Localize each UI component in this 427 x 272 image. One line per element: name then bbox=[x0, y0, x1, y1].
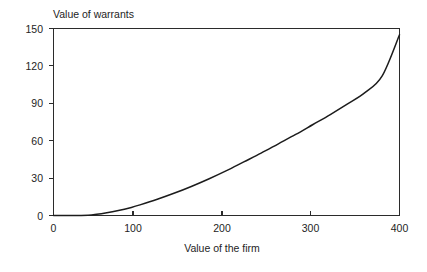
y-tick-label-150: 150 bbox=[25, 23, 43, 35]
y-tick-label-120: 120 bbox=[25, 60, 43, 72]
chart-figure: 150 120 90 60 30 0 0 100 200 300 400 Val… bbox=[0, 0, 427, 272]
warrant-value-line-chart: 150 120 90 60 30 0 0 100 200 300 400 Val… bbox=[0, 0, 427, 272]
y-tick-label-0: 0 bbox=[37, 210, 43, 222]
x-axis-title: Value of the firm bbox=[184, 242, 260, 254]
y-axis-ticks bbox=[49, 29, 54, 216]
y-tick-label-90: 90 bbox=[31, 97, 43, 109]
chart-title: Value of warrants bbox=[53, 8, 134, 20]
x-tick-label-400: 400 bbox=[391, 222, 409, 234]
x-tick-label-200: 200 bbox=[213, 222, 231, 234]
warrant-value-curve bbox=[54, 35, 400, 216]
plot-frame bbox=[54, 29, 400, 216]
x-tick-label-300: 300 bbox=[302, 222, 320, 234]
y-tick-label-30: 30 bbox=[31, 172, 43, 184]
y-tick-labels: 150 120 90 60 30 0 bbox=[25, 23, 43, 222]
x-tick-labels: 0 100 200 300 400 bbox=[51, 222, 409, 234]
x-tick-label-0: 0 bbox=[51, 222, 57, 234]
x-tick-label-100: 100 bbox=[124, 222, 142, 234]
y-tick-label-60: 60 bbox=[31, 135, 43, 147]
